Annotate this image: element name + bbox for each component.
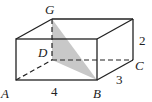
edge-top-right xyxy=(97,19,133,39)
vertex-label-d: D xyxy=(37,45,48,60)
vertex-label-g: G xyxy=(45,2,55,17)
dimension-width: 3 xyxy=(116,72,123,87)
dimension-height: 2 xyxy=(139,33,146,48)
shaded-triangle-gdb xyxy=(52,19,97,80)
prism-diagram: G D A B C 4 3 2 xyxy=(0,0,152,102)
vertex-label-c: C xyxy=(135,58,144,73)
vertex-label-b: B xyxy=(93,86,101,101)
edge-top-left xyxy=(16,19,52,39)
vertex-label-a: A xyxy=(0,86,9,101)
dimension-length: 4 xyxy=(51,84,58,99)
hidden-edge-ad xyxy=(16,60,52,80)
edge-bc xyxy=(97,60,133,80)
